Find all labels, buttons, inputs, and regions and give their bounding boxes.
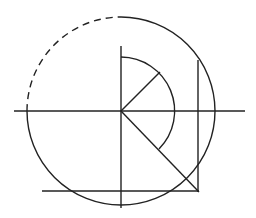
diagonal-line [121,111,199,192]
geometry-diagram [0,0,256,218]
big-circle-dashed-arc [27,17,121,111]
radius-line-45 [121,72,160,111]
